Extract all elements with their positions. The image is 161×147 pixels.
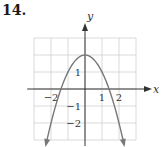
- curve-end-arrow-icon: [44, 138, 50, 146]
- curve-end-arrow-icon: [120, 138, 126, 146]
- x-tick-label: −2: [44, 92, 59, 103]
- y-axis-arrow-icon: [82, 23, 88, 31]
- tick-labels: −2121−1−2: [44, 67, 123, 129]
- y-axis-label: y: [86, 10, 94, 23]
- y-tick-label: −2: [66, 118, 81, 129]
- axes: [27, 23, 152, 146]
- x-axis-label: x: [153, 83, 160, 96]
- x-tick-label: 2: [116, 92, 122, 103]
- y-tick-label: −1: [66, 101, 81, 112]
- x-axis-arrow-icon: [144, 86, 152, 92]
- y-tick-label: 1: [75, 67, 81, 78]
- parabola-graph: −2121−1−2 x y: [0, 0, 161, 147]
- x-tick-label: 1: [99, 92, 105, 103]
